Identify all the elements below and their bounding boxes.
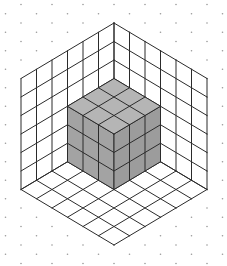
grid-dot [175, 263, 177, 265]
grid-dot [5, 13, 7, 15]
grid-dot [113, 263, 115, 265]
grid-dot [67, 253, 69, 255]
grid-dot [191, 31, 193, 33]
grid-dot [206, 4, 208, 6]
grid-dot [222, 105, 224, 107]
grid-dot [191, 253, 193, 255]
grid-dot [51, 22, 53, 24]
grid-dot [98, 253, 100, 255]
grid-dot [144, 263, 146, 265]
grid-dot [82, 244, 84, 246]
grid-dot [222, 50, 224, 52]
grid-dot [82, 22, 84, 24]
grid-dot [129, 13, 131, 15]
grid-dot [175, 4, 177, 6]
grid-dot [144, 22, 146, 24]
grid-dot [144, 4, 146, 6]
grid-dot [36, 31, 38, 33]
grid-dot [20, 59, 22, 61]
grid-dot [5, 105, 7, 107]
grid-dot [206, 22, 208, 24]
grid-dot [20, 244, 22, 246]
grid-dot [206, 59, 208, 61]
grid-dot [67, 13, 69, 15]
grid-dot [20, 41, 22, 43]
grid-dot [98, 13, 100, 15]
grid-dot [191, 13, 193, 15]
grid-dot [191, 216, 193, 218]
grid-dot [222, 68, 224, 70]
grid-dot [222, 87, 224, 89]
grid-dot [222, 31, 224, 33]
grid-dot [20, 263, 22, 265]
grid-dot [36, 235, 38, 237]
grid-dot [5, 235, 7, 237]
grid-dot [175, 22, 177, 24]
grid-dot [222, 124, 224, 126]
grid-dot [5, 68, 7, 70]
grid-dot [51, 4, 53, 6]
grid-dot [144, 244, 146, 246]
grid-dot [175, 244, 177, 246]
grid-dot [20, 22, 22, 24]
grid-dot [206, 244, 208, 246]
grid-dot [175, 226, 177, 228]
grid-dot [5, 31, 7, 33]
grid-dot [20, 226, 22, 228]
grid-dot [222, 253, 224, 255]
shaded-cube-3x3x3 [68, 79, 161, 190]
grid-dot [5, 87, 7, 89]
grid-dot [191, 50, 193, 52]
grid-dot [5, 253, 7, 255]
grid-dot [175, 41, 177, 43]
grid-dot [129, 253, 131, 255]
grid-dot [36, 253, 38, 255]
grid-dot [160, 253, 162, 255]
grid-dot [5, 124, 7, 126]
grid-dot [160, 31, 162, 33]
isometric-drawing [0, 0, 227, 266]
grid-dot [5, 179, 7, 181]
grid-dot [113, 4, 115, 6]
grid-dot [36, 13, 38, 15]
grid-dot [51, 263, 53, 265]
grid-dot [36, 216, 38, 218]
grid-dot [67, 235, 69, 237]
grid-dot [20, 4, 22, 6]
grid-dot [222, 161, 224, 163]
grid-dot [82, 4, 84, 6]
grid-dot [5, 216, 7, 218]
grid-dot [191, 235, 193, 237]
grid-dot [36, 50, 38, 52]
grid-dot [67, 31, 69, 33]
grid-dot [206, 263, 208, 265]
grid-dot [51, 226, 53, 228]
grid-dot [206, 41, 208, 43]
grid-dot [5, 198, 7, 200]
grid-dot [206, 226, 208, 228]
grid-dot [160, 13, 162, 15]
grid-dot [51, 244, 53, 246]
grid-dot [222, 179, 224, 181]
grid-dot [20, 207, 22, 209]
grid-dot [160, 235, 162, 237]
grid-dot [82, 263, 84, 265]
grid-dot [206, 207, 208, 209]
grid-dot [5, 161, 7, 163]
isometric-figure: 3x3x3 cube in corner of isometric room [0, 0, 227, 266]
grid-dot [5, 142, 7, 144]
grid-dot [222, 235, 224, 237]
grid-dot [5, 50, 7, 52]
grid-dot [222, 142, 224, 144]
grid-dot [51, 41, 53, 43]
grid-dot [222, 198, 224, 200]
grid-dot [222, 216, 224, 218]
grid-dot [222, 13, 224, 15]
